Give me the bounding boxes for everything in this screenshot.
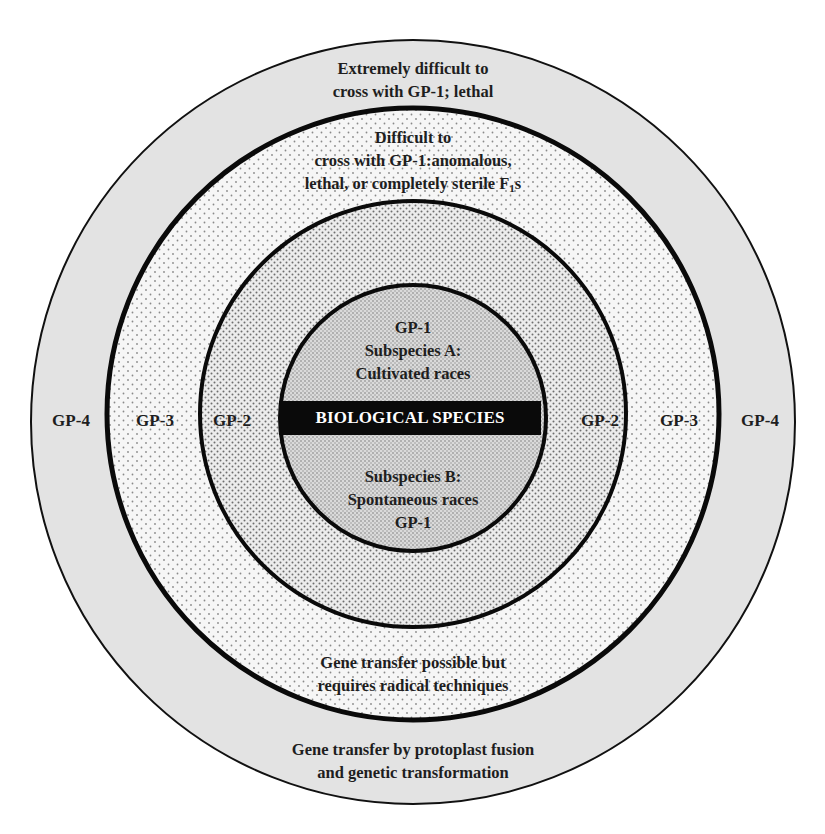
gp1-bottom-line-3: GP-1: [313, 511, 513, 534]
gp4-top-line-1: Extremely difficult to: [263, 57, 563, 80]
gp4-top-text: Extremely difficult to cross with GP-1; …: [263, 57, 563, 103]
gp1-top-line-3: Cultivated races: [313, 362, 513, 385]
gp3-top-text: Difficult to cross with GP-1:anomalous, …: [213, 126, 613, 195]
gp4-bottom-text: Gene transfer by protoplast fusion and g…: [213, 738, 613, 784]
gp4-right-label: GP-4: [741, 411, 779, 431]
gp3-right-label: GP-3: [660, 411, 698, 431]
gp3-top-line-1: Difficult to: [213, 126, 613, 149]
gp3-top-line-2: cross with GP-1:anomalous,: [213, 149, 613, 172]
gp4-bottom-line-1: Gene transfer by protoplast fusion: [213, 738, 613, 761]
gp3-bottom-text: Gene transfer possible but requires radi…: [213, 651, 613, 697]
gp1-bottom-text: Subspecies B: Spontaneous races GP-1: [313, 465, 513, 534]
gp4-bottom-line-2: and genetic transformation: [213, 761, 613, 784]
gp3-bottom-line-2: requires radical techniques: [213, 674, 613, 697]
gp4-left-label: GP-4: [52, 411, 90, 431]
gp4-top-line-2: cross with GP-1; lethal: [263, 80, 563, 103]
gp1-bottom-line-1: Subspecies B:: [313, 465, 513, 488]
gp1-top-line-1: GP-1: [313, 316, 513, 339]
gp1-top-line-2: Subspecies A:: [313, 339, 513, 362]
biological-species-label: BIOLOGICAL SPECIES: [279, 401, 541, 435]
gp3-left-label: GP-3: [136, 411, 174, 431]
gp2-left-label: GP-2: [213, 411, 251, 431]
gp3-bottom-line-1: Gene transfer possible but: [213, 651, 613, 674]
gp1-bottom-line-2: Spontaneous races: [313, 488, 513, 511]
gp3-top-line-3: lethal, or completely sterile F1s: [213, 172, 613, 195]
gp2-right-label: GP-2: [581, 411, 619, 431]
gp1-top-text: GP-1 Subspecies A: Cultivated races: [313, 316, 513, 385]
